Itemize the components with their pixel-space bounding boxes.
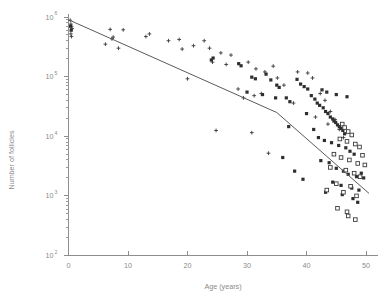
data-point-open-square [336, 206, 340, 210]
data-point-filled-square [344, 146, 347, 149]
data-point-filled-square [287, 125, 290, 128]
axes [69, 14, 379, 256]
data-point-filled-square [351, 197, 354, 200]
x-axis-title: Age (years) [204, 282, 241, 291]
data-point-filled-square [281, 156, 284, 159]
series-filled-square-markers [69, 25, 365, 204]
data-point-filled-square [353, 153, 356, 156]
x-axis-ticks [69, 251, 367, 256]
data-point-open-square [334, 182, 338, 186]
data-point-filled-square [330, 141, 333, 144]
x-tick-label: 40 [303, 261, 311, 270]
data-point-open-square [348, 158, 352, 162]
data-point-filled-square [285, 96, 288, 99]
data-point-open-square [355, 194, 359, 198]
y-tick-label: 10 [46, 13, 54, 22]
data-point-filled-square [250, 76, 253, 79]
follicle-age-chart: 102103104105106 01020304050 Age (years) … [0, 0, 386, 303]
data-point-filled-square [325, 91, 328, 94]
data-point-filled-square [278, 86, 281, 89]
y-axis-title: Number of follicles [7, 130, 16, 190]
data-point-open-square [345, 210, 349, 214]
chart-canvas: 102103104105106 01020304050 Age (years) … [0, 0, 386, 303]
x-tick-label: 20 [184, 261, 192, 270]
x-tick-label: 50 [362, 261, 370, 270]
data-point-open-square [350, 133, 354, 137]
data-point-filled-square [312, 128, 315, 131]
data-point-filled-square [318, 104, 321, 107]
data-point-open-square [349, 184, 353, 188]
data-point-filled-square [69, 25, 72, 28]
data-point-open-square [343, 126, 347, 130]
y-axis-ticks [64, 17, 69, 256]
y-axis-tick-labels: 102103104105106 [46, 10, 58, 260]
x-tick-label: 10 [124, 261, 132, 270]
data-point-open-square [346, 130, 350, 134]
data-point-filled-square [299, 82, 302, 85]
data-point-filled-square [319, 159, 322, 162]
data-point-filled-square [317, 136, 320, 139]
data-point-filled-square [310, 94, 313, 97]
data-point-filled-square [274, 96, 277, 99]
data-point-filled-square [362, 176, 365, 179]
data-point-filled-square [323, 139, 326, 142]
data-point-filled-square [339, 184, 342, 187]
data-point-filled-square [322, 106, 325, 109]
data-point-open-square [329, 166, 333, 170]
x-tick-label: 30 [243, 261, 251, 270]
y-tick-label-exponent: 2 [55, 249, 58, 255]
data-point-open-square [352, 171, 356, 175]
data-point-open-square [354, 218, 358, 222]
data-point-filled-square [254, 77, 257, 80]
data-point-filled-square [303, 85, 306, 88]
data-point-filled-square [360, 172, 363, 175]
data-point-open-square [363, 163, 367, 167]
data-point-filled-square [245, 91, 248, 94]
y-tick-label-exponent: 3 [55, 189, 58, 195]
y-tick-label-exponent: 5 [55, 70, 58, 76]
data-point-filled-square [326, 112, 329, 115]
data-point-filled-square [335, 167, 338, 170]
data-point-filled-square [212, 56, 215, 59]
data-point-open-square [342, 190, 346, 194]
data-point-filled-square [335, 93, 338, 96]
data-point-open-square [345, 140, 349, 144]
data-point-filled-square [239, 64, 242, 67]
data-point-open-square [338, 137, 342, 141]
y-tick-label: 10 [46, 251, 54, 260]
data-point-filled-square [337, 144, 340, 147]
data-point-filled-square [356, 201, 359, 204]
data-point-filled-square [305, 112, 308, 115]
data-point-open-square [346, 214, 350, 218]
data-point-filled-square [345, 95, 348, 98]
y-tick-label: 10 [46, 72, 54, 81]
y-tick-label: 10 [46, 132, 54, 141]
data-point-filled-square [328, 161, 331, 164]
data-point-filled-square [264, 73, 267, 76]
y-tick-label: 10 [46, 191, 54, 200]
data-point-filled-square [357, 188, 360, 191]
data-point-filled-square [269, 78, 272, 81]
data-point-open-square [354, 142, 358, 146]
data-point-open-square [339, 156, 343, 160]
data-point-open-square [361, 153, 365, 157]
data-point-filled-square [331, 181, 334, 184]
data-point-open-square [358, 175, 362, 179]
data-point-filled-square [301, 178, 304, 181]
data-point-open-square [356, 162, 360, 166]
data-point-filled-square [261, 93, 264, 96]
data-point-filled-square [343, 132, 346, 135]
data-point-filled-square [288, 100, 291, 103]
data-points-layer [68, 18, 366, 221]
data-point-filled-square [355, 175, 358, 178]
x-axis-tick-labels: 01020304050 [67, 261, 371, 270]
data-point-filled-square [70, 29, 73, 32]
y-tick-label-exponent: 4 [55, 130, 58, 136]
data-point-open-square [358, 145, 362, 149]
data-point-filled-square [320, 88, 323, 91]
x-tick-label: 0 [67, 261, 71, 270]
data-point-filled-square [295, 78, 298, 81]
data-point-filled-square [313, 97, 316, 100]
data-point-open-square [332, 152, 336, 156]
y-tick-label-exponent: 6 [55, 10, 58, 16]
